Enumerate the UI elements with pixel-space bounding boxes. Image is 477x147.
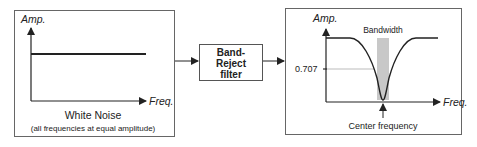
- center-frequency-label: Center frequency: [348, 121, 418, 131]
- bandwidth-label: Bandwidth: [363, 25, 403, 35]
- filter-block: Band- Reject filter: [200, 45, 263, 81]
- bandwidth-band: [377, 38, 389, 100]
- input-y-axis-label: Amp.: [20, 13, 46, 25]
- output-x-axis-label: Freq.: [443, 96, 468, 108]
- output-y-axis-label: Amp.: [312, 12, 338, 24]
- level-label: 0.707: [295, 64, 318, 74]
- input-panel: Amp. Freq. White Noise (all frequencies …: [15, 11, 175, 137]
- input-x-axis-label: Freq.: [149, 95, 174, 107]
- input-title: White Noise: [65, 109, 122, 121]
- filter-label-line3: filter: [220, 69, 242, 80]
- input-subtitle: (all frequencies at equal amplitude): [31, 124, 156, 133]
- band-reject-diagram: Amp. Freq. White Noise (all frequencies …: [0, 0, 477, 147]
- filter-label-line2: Reject: [216, 58, 247, 69]
- output-panel: Amp. Freq. Bandwidth 0.707 Center freque…: [286, 9, 468, 135]
- filter-label-line1: Band-: [217, 47, 245, 58]
